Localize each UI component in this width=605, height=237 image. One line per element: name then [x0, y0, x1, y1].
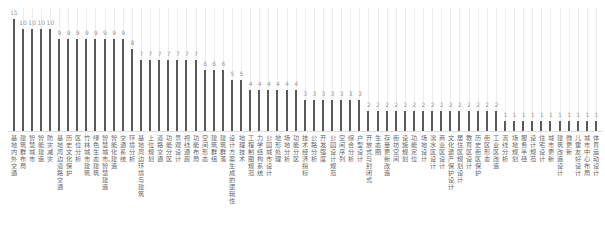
value-label: 2 [483, 102, 492, 108]
bar-column: 4场地分析 [283, 0, 292, 237]
bar [258, 90, 260, 131]
bar [85, 39, 87, 131]
bar-column: 3技术经济指标 [301, 0, 310, 237]
bar [122, 39, 124, 131]
value-label: 9 [91, 30, 100, 36]
bar [377, 111, 379, 131]
bar-column: 1服务半径 [519, 0, 528, 237]
value-label: 9 [82, 30, 91, 36]
bar [568, 121, 570, 131]
bar [22, 29, 24, 131]
category-label: 设施规划 [402, 134, 409, 162]
bar-column: 4功能分区 [292, 0, 301, 237]
bar-column: 5地理技术 [237, 0, 246, 237]
bar-column: 2历史街区保护 [474, 0, 483, 237]
bar-column: 2教育区设计 [465, 0, 474, 237]
category-label: 建筑群布局 [20, 134, 27, 169]
bar [131, 49, 133, 131]
value-label: 3 [301, 91, 310, 97]
bar [49, 29, 51, 131]
bar-column: 2工业区改造 [492, 0, 501, 237]
category-label: 流线分析 [502, 134, 509, 162]
bar [349, 100, 351, 131]
category-label: 教育区设计 [466, 134, 473, 169]
value-label: 1 [592, 112, 601, 118]
value-label: 3 [328, 91, 337, 97]
value-label: 1 [537, 112, 546, 118]
category-label: 建筑改造设计 [557, 134, 564, 176]
value-label: 2 [465, 102, 474, 108]
category-label: 综合分析 [347, 134, 354, 162]
category-label: 儿童友好设计 [575, 134, 582, 176]
category-label: 区位分析 [74, 134, 81, 162]
bar [449, 111, 451, 131]
category-label: 住宅设计 [538, 134, 545, 162]
bar-column: 9交通系统 [119, 0, 128, 237]
bar-column: 7道路交通 [155, 0, 164, 237]
value-label: 6 [210, 61, 219, 67]
value-label: 2 [474, 102, 483, 108]
category-label: 竹林城市建筑 [83, 134, 90, 176]
bar [58, 39, 60, 131]
value-label: 9 [73, 30, 82, 36]
category-label: 智慧城市、智慧建造 [102, 134, 109, 190]
bar-column: 5设计方案生成的逻辑性 [228, 0, 237, 237]
value-label: 11 [10, 10, 19, 16]
bar-column: 3公园设计规范 [328, 0, 337, 237]
value-label: 4 [255, 81, 264, 87]
bar-column: 9基地周边道路交通 [55, 0, 64, 237]
category-label: 开发强度 [320, 134, 327, 162]
bar-column: 2存量更新改造 [383, 0, 392, 237]
bar-column: 7景观设计 [173, 0, 182, 237]
value-label: 2 [383, 102, 392, 108]
bar-column: 1流线分析 [501, 0, 510, 237]
bar [513, 121, 515, 131]
category-label: 技术经济指标 [302, 134, 309, 176]
bar-column: 3开发强度 [319, 0, 328, 237]
bar [231, 80, 233, 131]
value-label: 4 [283, 81, 292, 87]
bar [158, 60, 160, 131]
bar [468, 111, 470, 131]
category-label: 防灾减灾 [47, 134, 54, 162]
bar-column: 10防灾减灾 [46, 0, 55, 237]
bar [140, 60, 142, 131]
category-label: 基地周边环境与建筑 [138, 134, 145, 197]
category-label: 历史文化保护 [65, 134, 72, 176]
value-label: 5 [228, 71, 237, 77]
bar-column: 2场地设计 [419, 0, 428, 237]
value-label: 4 [264, 81, 273, 87]
value-label: 2 [455, 102, 464, 108]
category-label: 绿色生态建筑 [92, 134, 99, 176]
bar-column: 1住宅设计 [537, 0, 546, 237]
bar [577, 121, 579, 131]
category-label: 公园设计规范 [329, 134, 336, 176]
category-label: 公园城市设计 [265, 134, 272, 176]
bar [586, 121, 588, 131]
category-label: 视线通廊 [183, 134, 190, 162]
bar [358, 100, 360, 131]
bar-column: 3综合分析 [346, 0, 355, 237]
bar [31, 29, 33, 131]
value-label: 3 [310, 91, 319, 97]
bar [331, 100, 333, 131]
bar-column: 9绿色生态建筑 [91, 0, 100, 237]
category-label: 工程制图规范 [247, 134, 254, 176]
value-label: 2 [428, 102, 437, 108]
category-label: 开放式与封闭式 [365, 134, 372, 183]
value-label: 3 [355, 91, 364, 97]
category-label: 交通系统 [120, 134, 127, 162]
value-label: 7 [146, 51, 155, 57]
category-label: 功能分区 [293, 134, 300, 162]
value-label: 7 [137, 51, 146, 57]
bar-column: 7功能分区 [164, 0, 173, 237]
bar-column: 6空间形态 [201, 0, 210, 237]
bar-column: 10智慧城市 [28, 0, 37, 237]
bar [395, 111, 397, 131]
bar [440, 111, 442, 131]
bar-column: 7功能布局 [192, 0, 201, 237]
category-label: 景观设计 [174, 134, 181, 162]
category-label: 功能布局 [193, 134, 200, 162]
bar [76, 39, 78, 131]
bar [149, 60, 151, 131]
